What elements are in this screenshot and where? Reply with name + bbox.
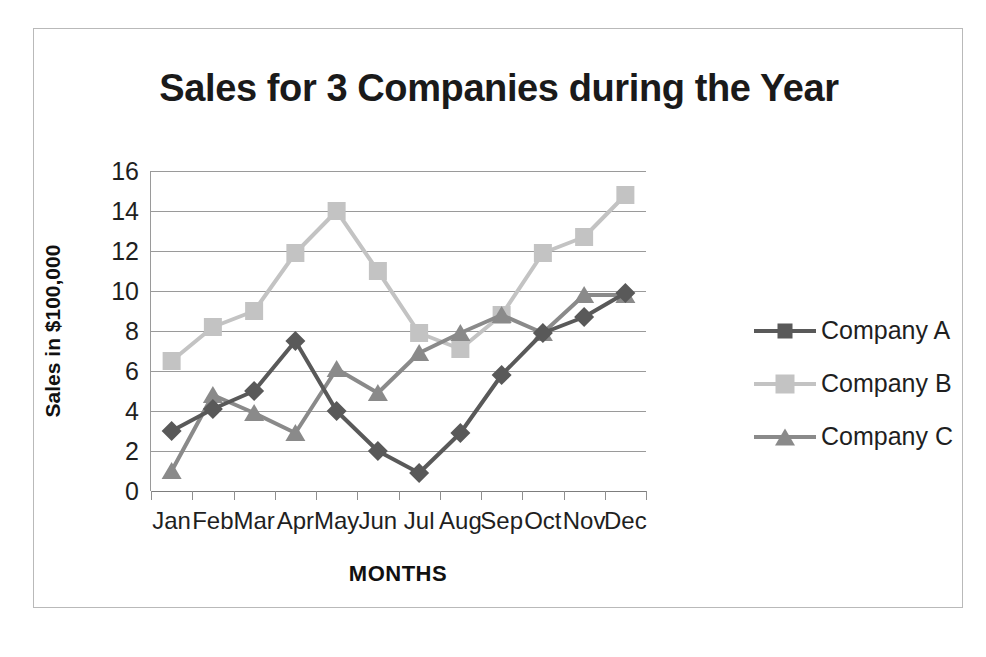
x-tick-mark	[192, 491, 193, 500]
legend-marker	[778, 323, 793, 338]
data-point-marker	[244, 404, 264, 421]
chart-frame: Sales for 3 Companies during the Year 02…	[33, 28, 963, 608]
x-tick-label-sep: Sep	[480, 507, 523, 535]
data-point-marker	[285, 424, 305, 441]
x-tick-label-dec: Dec	[604, 507, 647, 535]
legend-marker	[775, 428, 795, 445]
x-tick-label-oct: Oct	[524, 507, 561, 535]
legend-marker	[776, 374, 795, 393]
triangle-marker	[754, 424, 816, 450]
data-point-marker	[575, 228, 593, 246]
x-tick-label-may: May	[314, 507, 359, 535]
x-tick-label-jul: Jul	[404, 507, 435, 535]
y-tick-label: 16	[111, 157, 139, 186]
data-point-marker	[574, 307, 594, 327]
chart-title: Sales for 3 Companies during the Year	[34, 67, 964, 110]
series-layer	[151, 171, 646, 491]
data-point-marker	[616, 186, 634, 204]
plot-area: 0246810121416 JanFebMarAprMayJunJulAugSe…	[151, 171, 646, 491]
data-point-marker	[410, 324, 428, 342]
x-tick-mark	[440, 491, 441, 500]
data-point-marker	[162, 462, 182, 479]
data-point-marker	[162, 421, 182, 441]
legend-label: Company C	[821, 422, 953, 451]
x-tick-label-jan: Jan	[152, 507, 191, 535]
y-tick-label: 10	[111, 277, 139, 306]
series-line	[172, 295, 626, 471]
legend-item-company-b[interactable]: Company B	[754, 357, 964, 410]
data-point-marker	[328, 202, 346, 220]
data-point-marker	[204, 318, 222, 336]
data-point-marker	[369, 262, 387, 280]
series-line	[172, 195, 626, 361]
x-tick-mark	[357, 491, 358, 500]
chart-legend: Company ACompany BCompany C	[754, 304, 964, 463]
x-tick-mark	[399, 491, 400, 500]
x-tick-label-aug: Aug	[439, 507, 482, 535]
legend-item-company-c[interactable]: Company C	[754, 410, 964, 463]
x-tick-label-mar: Mar	[233, 507, 274, 535]
y-tick-label: 12	[111, 237, 139, 266]
data-point-marker	[163, 352, 181, 370]
data-point-marker	[409, 344, 429, 361]
x-tick-label-feb: Feb	[192, 507, 233, 535]
y-tick-label: 0	[125, 477, 139, 506]
y-tick-label: 4	[125, 397, 139, 426]
data-point-marker	[286, 244, 304, 262]
data-point-marker	[450, 324, 470, 341]
x-tick-label-jun: Jun	[359, 507, 398, 535]
x-tick-mark	[151, 491, 152, 500]
chart-page: Sales for 3 Companies during the Year 02…	[0, 0, 986, 657]
diamond-marker	[754, 318, 816, 344]
legend-label: Company A	[821, 316, 950, 345]
series-company-b	[163, 186, 635, 370]
x-tick-label-apr: Apr	[277, 507, 314, 535]
x-tick-mark	[234, 491, 235, 500]
data-point-marker	[451, 340, 469, 358]
x-tick-mark	[522, 491, 523, 500]
x-tick-label-nov: Nov	[563, 507, 606, 535]
legend-item-company-a[interactable]: Company A	[754, 304, 964, 357]
data-point-marker	[327, 360, 347, 377]
y-tick-label: 8	[125, 317, 139, 346]
y-tick-label: 14	[111, 197, 139, 226]
x-tick-mark	[605, 491, 606, 500]
data-point-marker	[245, 302, 263, 320]
y-tick-label: 2	[125, 437, 139, 466]
x-tick-mark	[275, 491, 276, 500]
x-axis-title: MONTHS	[349, 561, 447, 587]
x-tick-mark	[646, 491, 647, 500]
y-axis-title: Sales in $100,000	[41, 245, 65, 418]
data-point-marker	[534, 244, 552, 262]
x-tick-mark	[564, 491, 565, 500]
x-tick-mark	[316, 491, 317, 500]
legend-label: Company B	[821, 369, 952, 398]
series-company-c	[162, 286, 636, 479]
x-tick-mark	[481, 491, 482, 500]
y-tick-label: 6	[125, 357, 139, 386]
square-marker	[754, 371, 816, 397]
